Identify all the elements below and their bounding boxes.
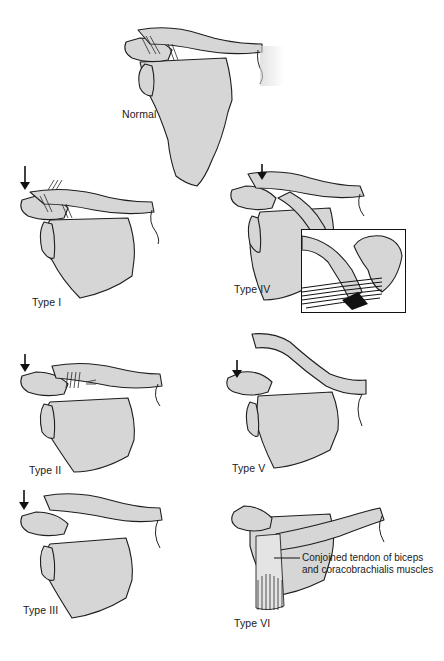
type-4-inset-illustration [302,230,405,312]
type-4-inset-detail [301,229,406,313]
panel-label-type-4: Type IV [234,283,270,295]
panel-type-3: Type III [0,480,220,661]
type-6-callout: Conjoined tendon of biceps and coracobra… [302,552,433,575]
panel-label-type-6: Type VI [234,617,270,629]
panel-label-type-1: Type I [32,296,61,308]
panel-type-1: Type I [0,160,220,340]
panel-label-type-2: Type II [29,464,61,476]
panel-type-6: Conjoined tendon of biceps and coracobra… [220,470,444,661]
panel-type-4: Type IV [220,160,444,340]
panel-label-normal: Normal [122,108,156,120]
type-3-arrow [0,480,220,661]
panel-type-2: Type II [0,340,220,490]
type-1-arrows [0,160,220,340]
callout-line-1: Conjoined tendon of biceps [302,552,433,564]
callout-line-2: and coracobrachialis muscles [302,564,433,576]
panel-type-5: Type V [220,330,444,480]
type-5-arrow [220,330,444,480]
panel-label-type-3: Type III [23,604,58,616]
